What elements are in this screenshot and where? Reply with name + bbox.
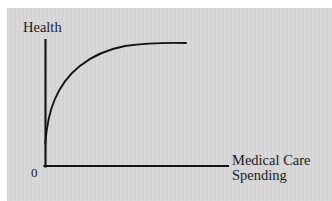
y-axis-label: Health (23, 20, 62, 35)
origin-label: 0 (31, 166, 38, 180)
x-axis-label: Medical Care Spending (232, 153, 311, 184)
figure-root: Health 0 Medical Care Spending (0, 0, 332, 201)
x-axis-label-line-1: Medical Care (232, 153, 311, 168)
health-production-curve (45, 43, 186, 144)
x-axis-label-line-2: Spending (232, 168, 311, 183)
